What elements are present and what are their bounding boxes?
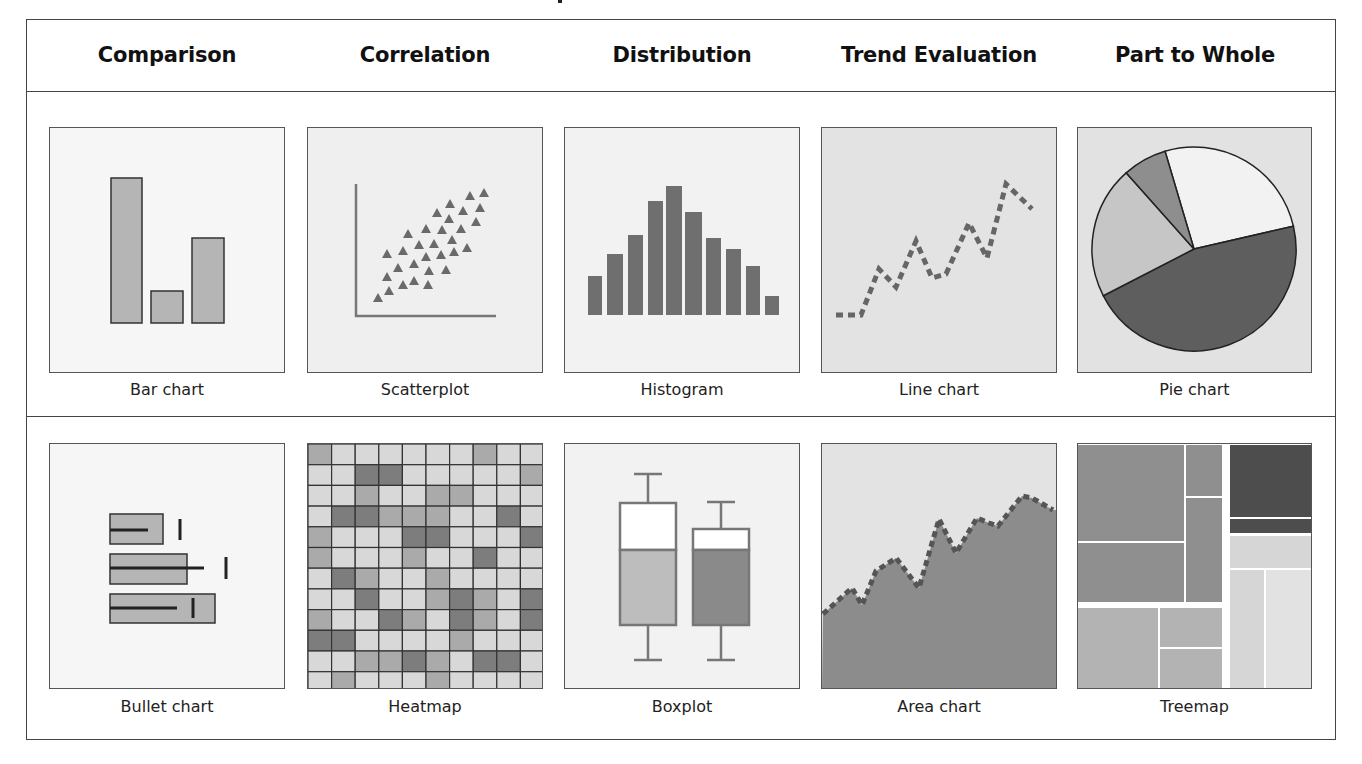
histogram-bar [607, 254, 623, 315]
heatmap-cell [379, 485, 403, 506]
triangle-marker [414, 240, 424, 249]
heatmap-cell [520, 651, 543, 672]
box-upper [620, 503, 676, 550]
heatmap-cell [402, 444, 426, 465]
pie-chart-panel [1077, 127, 1312, 373]
heatmap-cell [402, 589, 426, 610]
triangle-marker [432, 208, 442, 217]
heatmap-cell [520, 444, 543, 465]
cropped-title-fragment [558, 0, 562, 3]
bullet-chart-graphic [50, 444, 285, 689]
heatmap-cell [520, 548, 543, 569]
triangle-marker [465, 191, 475, 200]
heatmap-cell [355, 568, 379, 589]
heatmap-cell [402, 527, 426, 548]
heatmap-cell [332, 672, 356, 689]
heatmap-cell [473, 672, 497, 689]
heatmap-cell [379, 589, 403, 610]
heatmap-cell [308, 527, 332, 548]
header-distribution: Distribution [564, 30, 800, 80]
heatmap-cell [450, 506, 474, 527]
triangle-marker [436, 250, 446, 259]
histogram-bar [628, 235, 643, 315]
heatmap-cell [426, 589, 450, 610]
heatmap-cell [473, 444, 497, 465]
triangle-marker [423, 280, 433, 289]
treemap-tile [1230, 445, 1312, 517]
heatmap-cell [355, 589, 379, 610]
heatmap-cell [450, 485, 474, 506]
heatmap-cell [379, 444, 403, 465]
triangle-marker [398, 246, 408, 255]
heatmap-cell [379, 548, 403, 569]
heatmap-cell [355, 444, 379, 465]
triangle-marker [384, 286, 394, 295]
heatmap-cell [520, 506, 543, 527]
heatmap-cell [402, 672, 426, 689]
caption-treemap: Treemap [1077, 696, 1312, 718]
heatmap-cell [497, 651, 521, 672]
heatmap-cell [497, 630, 521, 651]
caption-scatterplot: Scatterplot [307, 379, 543, 401]
heatmap-cell [355, 485, 379, 506]
heatmap-cell [332, 506, 356, 527]
triangle-marker [441, 265, 451, 274]
heatmap-cell [308, 651, 332, 672]
heatmap-cell [450, 444, 474, 465]
heatmap-cell [332, 568, 356, 589]
treemap-tile [1160, 608, 1222, 647]
heatmap-cell [308, 568, 332, 589]
heatmap-cell [308, 589, 332, 610]
heatmap-cell [520, 568, 543, 589]
histogram-bar [666, 186, 682, 315]
heatmap-cell [355, 548, 379, 569]
heatmap-cell [473, 568, 497, 589]
heatmap-cell [355, 672, 379, 689]
treemap-tile [1186, 498, 1222, 602]
bar [151, 291, 183, 323]
heatmap-cell [355, 506, 379, 527]
histogram-bar [648, 201, 663, 315]
heatmap-cell [473, 527, 497, 548]
heatmap-cell [520, 589, 543, 610]
caption-bullet-chart: Bullet chart [49, 696, 285, 718]
treemap-tile [1078, 543, 1184, 602]
heatmap-cell [497, 610, 521, 631]
heatmap-cell [520, 672, 543, 689]
box-lower [693, 550, 749, 625]
heatmap-cell [520, 630, 543, 651]
heatmap-cell [332, 589, 356, 610]
heatmap-cell [450, 527, 474, 548]
histogram-bar [588, 276, 602, 315]
heatmap-cell [497, 527, 521, 548]
treemap-tile [1230, 536, 1312, 568]
pie-chart-graphic [1078, 128, 1312, 373]
heatmap-cell [450, 630, 474, 651]
heatmap-cell [473, 589, 497, 610]
heatmap-cell [426, 444, 450, 465]
triangle-marker [409, 276, 419, 285]
heatmap-cell [355, 610, 379, 631]
heatmap-cell [379, 672, 403, 689]
heatmap-graphic [308, 444, 543, 689]
box-lower [620, 550, 676, 625]
heatmap-cell [332, 527, 356, 548]
heatmap-cell [520, 610, 543, 631]
treemap-tile [1078, 445, 1184, 541]
heatmap-cell [473, 485, 497, 506]
heatmap-cell [308, 672, 332, 689]
heatmap-cell [332, 630, 356, 651]
triangle-marker [382, 272, 392, 281]
heatmap-cell [426, 548, 450, 569]
caption-boxplot: Boxplot [564, 696, 800, 718]
heatmap-panel [307, 443, 543, 689]
heatmap-cell [450, 589, 474, 610]
histogram-bar [746, 266, 760, 315]
treemap-tile [1266, 570, 1312, 688]
triangle-marker [398, 280, 408, 289]
triangle-marker [444, 214, 454, 223]
heatmap-cell [426, 485, 450, 506]
heatmap-cell [402, 506, 426, 527]
treemap-tile [1186, 445, 1222, 496]
heatmap-cell [497, 568, 521, 589]
